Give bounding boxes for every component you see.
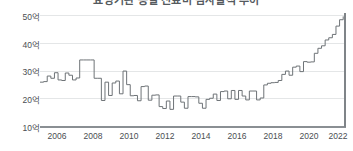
series-line-chart: [40, 15, 345, 126]
x-axis-tick-2018: 2018: [256, 131, 290, 141]
chart-title: 요양기관 종별 진료비 심사실적 추이: [0, 0, 353, 9]
x-axis-tick-2022: 2022: [321, 131, 353, 141]
x-axis-tick-2008: 2008: [76, 131, 110, 141]
x-axis-tick-2010: 2010: [112, 131, 146, 141]
x-axis-tick-2014: 2014: [184, 131, 218, 141]
plot-area: [40, 15, 345, 126]
x-axis-tick-2006: 2006: [40, 131, 74, 141]
y-axis-tick-50: 50억: [8, 10, 40, 22]
series-path-jinryobi: [40, 16, 343, 109]
y-axis-tick-10: 10억: [8, 121, 40, 133]
chart-container: 요양기관 종별 진료비 심사실적 추이 50억 40억 30억 20억 10억 …: [0, 0, 353, 151]
x-axis-tick-2016: 2016: [220, 131, 254, 141]
y-axis-tick-20: 20억: [8, 93, 40, 105]
y-axis-tick-30: 30억: [8, 65, 40, 77]
x-axis-tick-2012: 2012: [148, 131, 182, 141]
x-axis-line: [40, 126, 346, 128]
y-axis-tick-40: 40억: [8, 38, 40, 50]
plot-right-border: [344, 13, 346, 127]
